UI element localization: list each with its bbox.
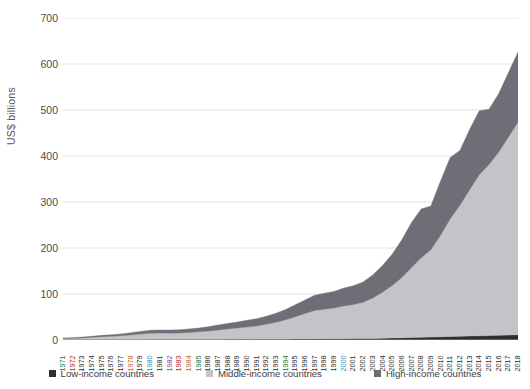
y-tick-label: 700 xyxy=(28,13,58,24)
y-tick-label: 300 xyxy=(28,197,58,208)
legend-label: Low-income countries xyxy=(61,368,154,379)
legend-label: Middle-income countries xyxy=(218,368,322,379)
legend-item-2[interactable]: High-income countries xyxy=(374,368,481,379)
legend-swatch-icon xyxy=(206,370,213,377)
y-tick-label: 200 xyxy=(28,243,58,254)
y-axis-tick-labels: 7006005004003002001000 xyxy=(24,0,58,389)
legend-swatch-icon xyxy=(374,370,381,377)
plot-svg xyxy=(63,18,518,340)
legend-item-0[interactable]: Low-income countries xyxy=(49,368,154,379)
stacked-area-chart: US$ billions 7006005004003002001000 1971… xyxy=(0,0,530,389)
legend-item-1[interactable]: Middle-income countries xyxy=(206,368,322,379)
plot-area xyxy=(63,18,518,340)
legend-swatch-icon xyxy=(49,370,56,377)
chart-legend: Low-income countriesMiddle-income countr… xyxy=(0,368,530,379)
legend-label: High-income countries xyxy=(386,368,481,379)
y-tick-label: 0 xyxy=(28,335,58,346)
y-tick-label: 400 xyxy=(28,151,58,162)
y-tick-label: 100 xyxy=(28,289,58,300)
y-tick-label: 600 xyxy=(28,59,58,70)
y-axis-title: US$ billions xyxy=(5,127,17,145)
x-axis-tick-labels: 1971197219731974197519761977197819791980… xyxy=(63,341,518,371)
y-tick-label: 500 xyxy=(28,105,58,116)
